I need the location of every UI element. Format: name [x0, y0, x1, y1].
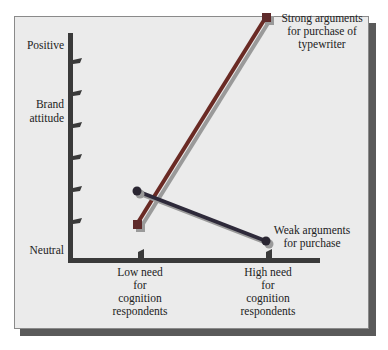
legend-strong: Strong arguments for purchase of typewri… [272, 12, 372, 51]
y-label-positive: Positive [22, 39, 64, 52]
legend-weak: Weak arguments for purchase [262, 224, 362, 250]
x-tick-low [138, 249, 144, 258]
strong-line-shadow [141, 20, 270, 227]
y-label-neutral: Neutral [22, 244, 64, 257]
weak-line [137, 191, 266, 241]
chart-plot [0, 0, 388, 350]
y-label-brand: Brand [22, 98, 64, 111]
x-tick-high [266, 249, 272, 258]
x-label-high: High need for cognition respondents [228, 266, 308, 318]
y-ticks [73, 58, 82, 224]
strong-line [137, 17, 266, 224]
y-axis [68, 33, 73, 262]
strong-low-marker [133, 220, 142, 229]
weak-low-marker [133, 187, 142, 196]
strong-high-marker [262, 13, 271, 22]
x-axis [68, 258, 320, 263]
y-label-attitude: attitude [22, 112, 64, 125]
x-label-low: Low need for cognition respondents [100, 266, 180, 318]
